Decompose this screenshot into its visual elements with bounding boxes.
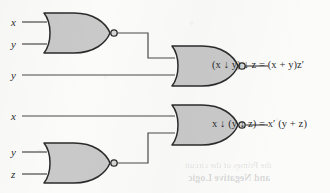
wire-lower-gate1-to-gate2 [117, 133, 175, 163]
circuit-schematic [0, 0, 330, 193]
figure-canvas: the Primes of the circuit and Negative L… [0, 0, 330, 193]
upper-input-label-y2: y [11, 70, 16, 81]
upper-input-label-x: x [11, 17, 16, 28]
upper-output-expression: (x ↓ y) ↓ z = (x + y)z′ [212, 60, 304, 71]
upper-input-label-y1: y [11, 39, 16, 50]
lower-input-label-y: y [11, 147, 16, 158]
wire-upper-gate1-to-gate2 [117, 33, 175, 58]
lower-gate-1-inversion-bubble [111, 160, 117, 166]
lower-gate-1-nor [44, 143, 110, 183]
upper-gate-1-inversion-bubble [111, 30, 117, 36]
upper-gate-1-nor [44, 13, 110, 53]
lower-input-label-z: z [11, 169, 15, 180]
lower-output-expression: x ↓ (y ↓ z) = x′ (y + z) [212, 119, 307, 130]
lower-input-label-x: x [11, 111, 16, 122]
